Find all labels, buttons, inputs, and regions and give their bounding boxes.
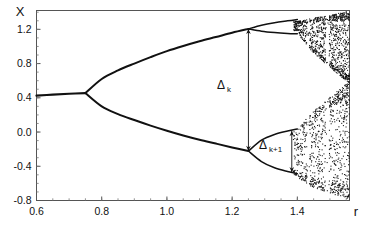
chaos-point: [345, 131, 346, 132]
chaos-point: [316, 111, 317, 112]
chaos-point: [346, 88, 347, 89]
chaos-point: [345, 32, 346, 33]
chaos-point: [322, 105, 323, 106]
chaos-point: [337, 19, 338, 20]
chaos-point: [319, 149, 320, 150]
chaos-point: [311, 181, 312, 182]
chaos-point: [306, 178, 307, 179]
chaos-point: [294, 158, 295, 159]
chaos-point: [336, 96, 337, 97]
chaos-point: [349, 44, 350, 45]
chaos-point: [294, 148, 295, 149]
chaos-point: [319, 124, 320, 125]
chaos-point: [293, 139, 294, 140]
chaos-point: [319, 159, 320, 160]
chaos-point: [329, 158, 330, 159]
chaos-point: [341, 43, 342, 44]
chaos-point: [341, 70, 342, 71]
chaos-point: [327, 101, 328, 102]
chaos-point: [339, 54, 340, 55]
chaos-point: [317, 167, 318, 168]
chaos-point: [349, 52, 350, 53]
chaos-point: [319, 168, 320, 169]
chaos-point: [309, 158, 310, 159]
chaos-point: [327, 23, 328, 24]
chaos-point: [344, 174, 345, 175]
chaos-point: [344, 163, 345, 164]
chaos-point: [312, 155, 313, 156]
chaos-point: [341, 123, 342, 124]
chaos-point: [340, 160, 341, 161]
chaos-point: [302, 147, 303, 148]
chaos-point: [310, 47, 311, 48]
chaos-point: [331, 53, 332, 54]
chaos-point: [322, 55, 323, 56]
chaos-point: [345, 73, 346, 74]
chaos-point: [313, 187, 314, 188]
chaos-point: [319, 58, 320, 59]
chaos-point: [345, 190, 346, 191]
chaos-point: [345, 51, 346, 52]
chaos-point: [334, 36, 335, 37]
chaos-point: [333, 145, 334, 146]
chaos-point: [349, 75, 350, 76]
chaos-point: [342, 89, 343, 90]
chaos-point: [295, 22, 296, 23]
chaos-point: [333, 103, 334, 104]
chaos-point: [308, 35, 309, 36]
chaos-point: [296, 150, 297, 151]
chaos-point: [335, 182, 336, 183]
chaos-point: [345, 30, 346, 31]
chaos-point: [345, 33, 346, 34]
chaos-point: [338, 158, 339, 159]
chaos-point: [333, 47, 334, 48]
chaos-point: [315, 121, 316, 122]
chaos-point: [332, 59, 333, 60]
chaos-point: [331, 188, 332, 189]
chaos-point: [338, 57, 339, 58]
chaos-point: [346, 192, 347, 193]
chaos-point: [316, 182, 317, 183]
chaos-point: [333, 18, 334, 19]
chaos-point: [299, 178, 300, 179]
chaos-point: [319, 181, 320, 182]
chaos-point: [340, 92, 341, 93]
chaos-point: [306, 135, 307, 136]
chaos-point: [321, 189, 322, 190]
chaos-point: [309, 19, 310, 20]
chaos-point: [333, 184, 334, 185]
chaos-point: [333, 30, 334, 31]
chaos-point: [335, 103, 336, 104]
chaos-point: [348, 39, 349, 40]
chaos-point: [342, 97, 343, 98]
chaos-point: [335, 69, 336, 70]
chaos-point: [334, 177, 335, 178]
chaos-point: [314, 113, 315, 114]
chaos-point: [324, 41, 325, 42]
chaos-point: [294, 24, 295, 25]
chaos-point: [336, 187, 337, 188]
chaos-point: [335, 183, 336, 184]
chaos-point: [335, 98, 336, 99]
chaos-point: [330, 32, 331, 33]
chaos-point: [326, 133, 327, 134]
chaos-point: [294, 142, 295, 143]
chaos-point: [313, 20, 314, 21]
chaos-point: [306, 181, 307, 182]
chaos-point: [330, 140, 331, 141]
chaos-point: [325, 124, 326, 125]
chaos-point: [319, 126, 320, 127]
chaos-point: [300, 31, 301, 32]
chaos-point: [310, 116, 311, 117]
chaos-point: [349, 107, 350, 108]
chaos-point: [324, 18, 325, 19]
chaos-point: [324, 167, 325, 168]
chaos-point: [336, 94, 337, 95]
chaos-point: [315, 19, 316, 20]
chaos-point: [338, 144, 339, 145]
chaos-point: [339, 52, 340, 53]
chaos-point: [300, 25, 301, 26]
chaos-point: [347, 85, 348, 86]
chaos-point: [311, 48, 312, 49]
chaos-point: [310, 22, 311, 23]
